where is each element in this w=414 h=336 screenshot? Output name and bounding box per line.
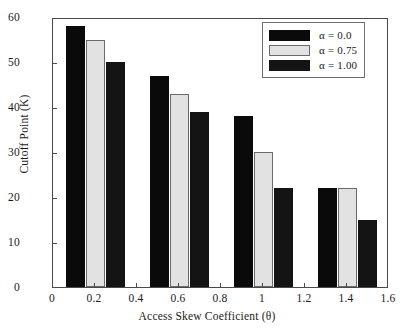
bar-0.75-x1 [254,152,273,287]
y-tick-label: 50 [0,57,20,69]
y-tick-mark [52,198,57,199]
y-tick-label: 40 [0,102,20,114]
bar-1.00-x1 [274,188,293,287]
legend-label: α = 1.00 [319,59,357,71]
y-tick-mark [52,63,57,64]
y-tick-label: 60 [0,12,20,24]
legend-label: α = 0.75 [319,44,357,56]
bar-0.75-x0.2 [86,40,105,288]
bar-0.0-x1.4 [318,188,337,287]
legend-swatch-icon [269,45,310,56]
x-tick-mark [94,283,95,288]
legend-label: α = 0.0 [319,29,352,41]
x-tick-mark [346,283,347,288]
legend-item: α = 0.75 [269,43,357,57]
legend-item: α = 0.0 [269,28,357,42]
x-tick-mark [136,283,137,288]
y-tick-label: 30 [0,147,20,159]
x-tick-label: 1.2 [284,292,324,304]
y-tick-mark [52,108,57,109]
y-tick-label: 20 [0,192,20,204]
x-tick-label: 0.4 [116,292,156,304]
bar-1.00-x1.4 [358,220,377,288]
x-tick-label: 0.8 [200,292,240,304]
y-tick-label: 10 [0,237,20,249]
x-tick-mark [178,283,179,288]
x-tick-mark [304,283,305,288]
bar-0.75-x0.6 [170,94,189,288]
bar-0.0-x1 [234,116,253,287]
x-tick-mark [262,283,263,288]
x-tick-label: 1.6 [368,292,408,304]
bar-0.75-x1.4 [338,188,357,287]
y-tick-label: 0 [0,282,20,294]
legend: α = 0.0α = 0.75α = 1.00 [262,22,365,78]
bar-0.0-x0.2 [66,26,85,287]
x-tick-mark [220,283,221,288]
x-tick-label: 0.2 [74,292,114,304]
bar-0.0-x0.6 [150,76,169,288]
y-tick-mark [52,243,57,244]
x-tick-label: 1.4 [326,292,366,304]
x-axis-label: Access Skew Coefficient (θ) [0,310,414,322]
legend-swatch-icon [269,60,310,71]
legend-swatch-icon [269,30,310,41]
bar-1.00-x0.2 [106,62,125,287]
x-tick-label: 1 [242,292,282,304]
x-tick-label: 0 [32,292,72,304]
x-tick-label: 0.6 [158,292,198,304]
bar-chart-figure: Cutoff Point (K) Access Skew Coefficient… [0,0,414,336]
y-tick-mark [52,153,57,154]
bar-1.00-x0.6 [190,112,209,288]
legend-item: α = 1.00 [269,58,357,72]
